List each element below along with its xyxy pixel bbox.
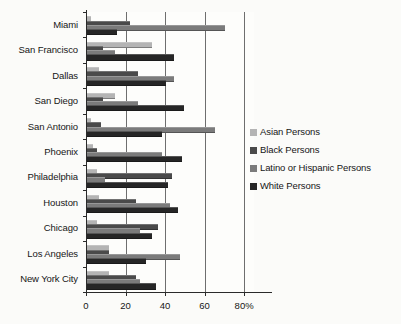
legend-item-latino-or-hispanic-persons[interactable]: Latino or Hispanic Persons: [250, 160, 400, 176]
bar-phoenix-white-persons: [87, 156, 182, 162]
x-axis-tick-20: [126, 292, 127, 296]
category-label-new-york-city: New York City: [0, 274, 78, 284]
y-axis-tick-4: [83, 114, 86, 115]
category-label-phoenix: Phoenix: [0, 147, 78, 157]
x-axis-tick-40: [165, 292, 166, 296]
x-axis-tick-label-40: 40: [160, 301, 171, 311]
bar-group-san-francisco: [87, 42, 255, 59]
y-axis-tick-5: [83, 139, 86, 140]
bar-group-houston: [87, 195, 255, 212]
bar-san-antonio-white-persons: [87, 131, 162, 137]
bar-group-chicago: [87, 220, 255, 237]
bar-houston-white-persons: [87, 207, 178, 213]
category-label-los-angeles: Los Angeles: [0, 249, 78, 259]
x-axis-tick-0: [86, 292, 87, 296]
category-label-san-francisco: San Francisco: [0, 45, 78, 55]
x-axis-tick-60: [205, 292, 206, 296]
plot-area: 020406080%: [86, 12, 254, 292]
legend-swatch-icon: [250, 129, 257, 136]
y-axis-tick-6: [83, 165, 86, 166]
bar-miami-white-persons: [87, 29, 117, 35]
bar-philadelphia-white-persons: [87, 182, 168, 188]
bar-group-san-diego: [87, 93, 255, 110]
bar-group-new-york-city: [87, 271, 255, 288]
legend-swatch-icon: [250, 165, 257, 172]
chart-legend: Asian PersonsBlack PersonsLatino or Hisp…: [250, 124, 400, 196]
category-label-miami: Miami: [0, 20, 78, 30]
bar-group-los-angeles: [87, 245, 255, 262]
bar-los-angeles-white-persons: [87, 258, 146, 264]
x-axis-tick-label-20: 20: [120, 301, 131, 311]
x-axis-tick-80: [244, 292, 245, 296]
legend-label: Latino or Hispanic Persons: [260, 163, 371, 173]
y-axis-tick-1: [83, 37, 86, 38]
category-label-houston: Houston: [0, 198, 78, 208]
legend-swatch-icon: [250, 147, 257, 154]
bar-group-dallas: [87, 67, 255, 84]
bar-chart: MiamiSan FranciscoDallasSan DiegoSan Ant…: [0, 0, 401, 324]
bar-group-miami: [87, 16, 255, 33]
x-axis-tick-label-80: 80%: [235, 301, 254, 311]
category-label-philadelphia: Philadelphia: [0, 172, 78, 182]
y-axis-tick-8: [83, 216, 86, 217]
category-axis-labels: MiamiSan FranciscoDallasSan DiegoSan Ant…: [0, 12, 82, 292]
bar-dallas-white-persons: [87, 80, 166, 86]
legend-label: Black Persons: [260, 145, 319, 155]
bar-san-diego-white-persons: [87, 105, 184, 111]
bar-new-york-city-white-persons: [87, 283, 156, 289]
legend-item-black-persons[interactable]: Black Persons: [250, 142, 400, 158]
legend-label: Asian Persons: [260, 127, 320, 137]
y-axis-tick-2: [83, 63, 86, 64]
x-axis-tick-label-0: 0: [83, 301, 88, 311]
category-label-san-antonio: San Antonio: [0, 122, 78, 132]
category-label-san-diego: San Diego: [0, 96, 78, 106]
y-axis-tick-10: [83, 267, 86, 268]
y-axis-tick-7: [83, 190, 86, 191]
category-label-chicago: Chicago: [0, 223, 78, 233]
legend-item-white-persons[interactable]: White Persons: [250, 178, 400, 194]
y-axis-tick-11: [83, 292, 86, 293]
x-axis-tick-label-60: 60: [199, 301, 210, 311]
legend-swatch-icon: [250, 183, 257, 190]
category-label-dallas: Dallas: [0, 71, 78, 81]
y-axis-tick-3: [83, 88, 86, 89]
legend-item-asian-persons[interactable]: Asian Persons: [250, 124, 400, 140]
bar-group-philadelphia: [87, 169, 255, 186]
y-axis-tick-9: [83, 241, 86, 242]
legend-label: White Persons: [260, 181, 320, 191]
bar-san-francisco-white-persons: [87, 54, 174, 60]
bar-group-phoenix: [87, 144, 255, 161]
bar-chicago-white-persons: [87, 233, 152, 239]
y-axis-line: [86, 10, 87, 293]
bar-group-san-antonio: [87, 118, 255, 135]
y-axis-tick-0: [83, 12, 86, 13]
